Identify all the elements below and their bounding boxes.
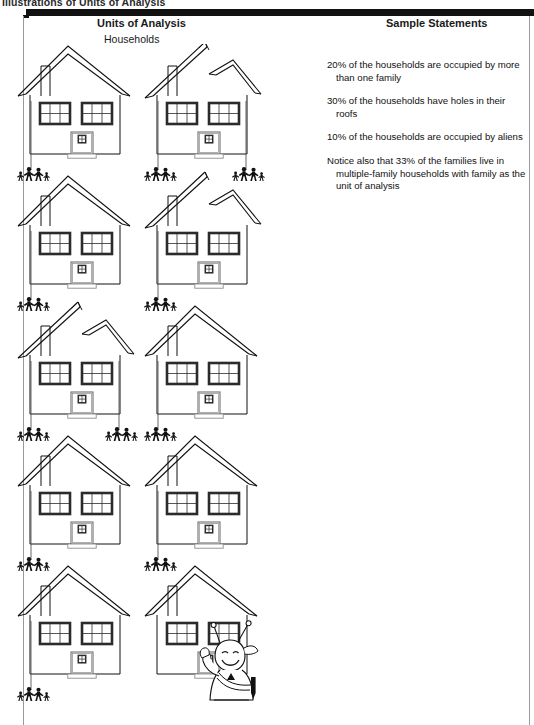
person-figure xyxy=(151,557,162,571)
household-cell xyxy=(144,44,265,181)
household-cell xyxy=(17,436,130,571)
house-window-left xyxy=(167,363,197,384)
person-figure xyxy=(161,298,171,311)
household-cell xyxy=(144,436,257,571)
person-figure xyxy=(144,171,151,181)
person-figure xyxy=(151,297,162,311)
person-figure xyxy=(144,431,151,441)
family-group xyxy=(17,427,50,441)
person-figure xyxy=(24,687,35,701)
household-cell xyxy=(17,46,130,181)
person-figure xyxy=(170,562,177,571)
person-figure xyxy=(24,557,35,571)
family-group xyxy=(144,557,177,571)
house-door xyxy=(68,652,96,678)
house-icon xyxy=(144,172,261,311)
person-figure xyxy=(131,432,138,441)
house-window-left xyxy=(40,103,70,124)
person-figure xyxy=(17,301,24,311)
house-icon xyxy=(17,566,130,701)
households-svg xyxy=(0,44,320,724)
person-figure xyxy=(144,301,151,311)
house-window-right xyxy=(209,103,239,124)
person-figure xyxy=(34,298,44,311)
sample-statements-heading: Sample Statements xyxy=(386,17,487,29)
statement-item: 20% of the households are occupied by mo… xyxy=(327,59,527,84)
house-door xyxy=(195,262,223,288)
house-window-left xyxy=(40,233,70,254)
person-figure xyxy=(24,167,35,181)
figure-top-rule xyxy=(26,9,534,16)
person-figure xyxy=(151,427,162,441)
person-figure xyxy=(17,691,24,701)
family-group xyxy=(144,427,177,441)
house-icon xyxy=(17,302,138,441)
house-window-left xyxy=(167,623,197,644)
person-figure xyxy=(34,558,44,571)
house-icon xyxy=(17,46,130,181)
house-window-right xyxy=(82,363,112,384)
family-group xyxy=(105,427,138,441)
person-figure xyxy=(170,302,177,311)
person-figure xyxy=(24,297,35,311)
units-of-analysis-heading: Units of Analysis xyxy=(97,17,186,29)
household-cell xyxy=(17,566,130,701)
person-figure xyxy=(34,168,44,181)
person-figure xyxy=(17,431,24,441)
person-figure xyxy=(151,167,162,181)
house-door xyxy=(195,132,223,158)
house-window-right xyxy=(82,623,112,644)
person-figure xyxy=(232,171,239,181)
house-window-right xyxy=(209,233,239,254)
statement-item: Notice also that 33% of the families liv… xyxy=(327,155,527,193)
person-figure xyxy=(24,427,35,441)
person-figure xyxy=(43,562,50,571)
house-door xyxy=(68,262,96,288)
sample-statements-list: 20% of the households are occupied by mo… xyxy=(327,59,527,193)
person-figure xyxy=(144,561,151,571)
person-figure xyxy=(34,428,44,441)
house-window-left xyxy=(167,103,197,124)
person-figure xyxy=(105,431,112,441)
household-cell xyxy=(17,176,130,311)
household-cell xyxy=(145,566,258,700)
page-caption: Illustrations of Units of Analysis xyxy=(2,0,302,8)
person-figure xyxy=(17,561,24,571)
person-figure xyxy=(170,432,177,441)
house-icon xyxy=(144,44,265,181)
house-door xyxy=(195,522,223,548)
person-figure xyxy=(122,428,132,441)
person-figure xyxy=(43,172,50,181)
person-figure xyxy=(17,171,24,181)
household-cell xyxy=(144,172,261,311)
family-group xyxy=(144,297,177,311)
person-figure xyxy=(161,168,171,181)
house-icon xyxy=(144,306,257,441)
person-figure xyxy=(170,172,177,181)
house-icon xyxy=(17,436,130,571)
family-group xyxy=(144,167,177,181)
house-window-left xyxy=(40,623,70,644)
house-window-right xyxy=(209,493,239,514)
house-door xyxy=(68,392,96,418)
person-figure xyxy=(249,168,259,181)
house-window-left xyxy=(167,233,197,254)
family-group xyxy=(17,167,50,181)
house-door xyxy=(68,132,96,158)
house-window-left xyxy=(40,493,70,514)
person-figure xyxy=(161,558,171,571)
house-icon xyxy=(144,436,257,571)
person-figure xyxy=(43,302,50,311)
house-window-right xyxy=(82,233,112,254)
house-window-left xyxy=(40,363,70,384)
person-figure xyxy=(43,692,50,701)
statement-item: 30% of the households have holes in thei… xyxy=(327,95,527,120)
house-window-right xyxy=(82,103,112,124)
house-icon xyxy=(17,176,130,311)
person-figure xyxy=(112,427,123,441)
households-illustration xyxy=(0,44,320,724)
statement-item: 10% of the households are occupied by al… xyxy=(327,131,527,144)
house-icon xyxy=(145,566,258,700)
family-group xyxy=(232,167,265,181)
household-cell xyxy=(17,302,138,441)
